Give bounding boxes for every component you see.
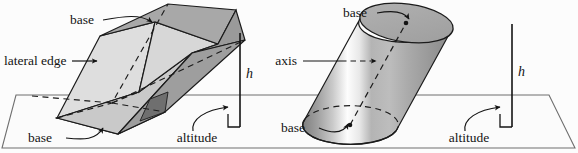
cylinder-altitude-text: altitude [449,130,490,145]
cylinder-base-top-text: base [343,5,367,20]
cylinder-axis-text: axis [275,53,297,68]
prism-lateral-edge-text: lateral edge [4,53,67,68]
cylinder-base-bottom-text: base [281,120,305,135]
figure-canvas: base lateral edge base h altitude [0,0,578,153]
prism-base-bottom-text: base [28,130,52,145]
prism-lateral-edge-label: lateral edge [4,53,97,68]
prism-height-symbol: h [246,66,253,81]
cylinder-height-symbol: h [518,64,525,79]
prism-altitude-text: altitude [177,130,218,145]
geometry-figure: base lateral edge base h altitude [0,0,578,153]
prism-base-top-text: base [70,12,94,27]
